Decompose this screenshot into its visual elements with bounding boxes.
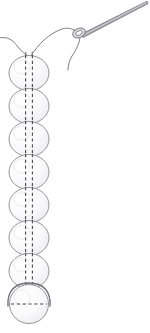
bead-4 <box>9 154 49 190</box>
needle-eye <box>71 26 87 40</box>
bead-body <box>9 221 49 256</box>
thread-loop-tail <box>68 36 80 70</box>
bead-body <box>9 89 49 124</box>
illustration-canvas <box>0 0 150 333</box>
stop-bead <box>8 283 50 324</box>
thread-left-tail <box>0 37 28 56</box>
beading-illustration <box>0 0 150 333</box>
thread-over-arc <box>31 28 77 56</box>
bead-2 <box>9 88 49 124</box>
bead-body <box>9 188 49 223</box>
bead-6 <box>9 220 49 256</box>
bead-column <box>9 55 49 289</box>
bead-1 <box>9 55 49 91</box>
bead-5 <box>9 187 49 223</box>
bead-body <box>9 155 49 190</box>
sewing-needle <box>71 1 148 40</box>
bead-3 <box>9 121 49 157</box>
needle-shaft-highlight <box>82 2 146 36</box>
bead-body <box>9 122 49 157</box>
bead-body <box>9 56 49 91</box>
